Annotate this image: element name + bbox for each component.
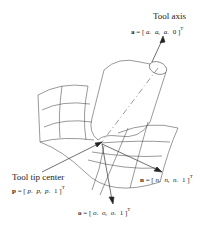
orientation-ox: oₓ [93,209,99,217]
tool-tip-symbol: p [12,187,16,195]
tool-tip-pz: pₓ [45,187,51,195]
orientation-oy: oᵧ [102,209,107,217]
tool-tip-transpose: T [62,185,65,190]
tool-axis-arrowhead [160,36,165,43]
normal-ny: nᵧ [164,176,169,184]
tool-tip-leader [42,144,98,172]
orientation-w: 1 [120,209,124,217]
normal-equation: n = [ nₓ nᵧ nₓ 1 ]T [140,174,193,184]
tool-axis-w: 0 [173,28,177,36]
tool-axis-az: aₓ [164,28,170,36]
orientation-oz: oₓ [111,209,117,217]
tool-cylinder [91,59,169,142]
tool-axis-title: Tool axis [153,12,186,21]
normal-arrowhead [154,167,162,172]
tool-tip-arrowhead [95,142,102,147]
orientation-arrowhead [109,197,114,204]
orientation-arrow [102,144,112,200]
normal-symbol: n [140,176,144,184]
tool-tip-equation: p = [ pₓ pᵧ pₓ 1 ]T [12,185,65,195]
tool-axis-transpose: T [180,26,183,31]
tool-orientation-diagram: Tool axis a = [ aₓ aᵧ aₓ 0 ]T Tool tip c… [0,0,221,227]
orientation-transpose: T [127,207,130,212]
normal-nx: nₓ [155,176,161,184]
tool-axis-ax: aₓ [146,28,152,36]
tool-tip-py: pᵧ [36,187,41,195]
tool-tip-w: 1 [54,187,58,195]
normal-w: 1 [182,176,186,184]
orientation-equation: o = [ oₓ oᵧ oₓ 1 ]T [78,207,130,217]
normal-transpose: T [190,174,193,179]
tool-tip-title: Tool tip center [12,173,64,182]
tool-axis-ay: aᵧ [155,28,160,36]
tool-tip-px: pₓ [27,187,33,195]
tool-axis-symbol: a [131,28,135,36]
normal-nz: nₓ [173,176,179,184]
orientation-symbol: o [78,209,82,217]
normal-arrow [102,144,158,170]
tool-axis-equation: a = [ aₓ aᵧ aₓ 0 ]T [131,26,183,36]
